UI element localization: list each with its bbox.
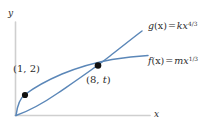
curve-label-g: g(x)=kx4/3 bbox=[148, 21, 197, 31]
point2-suffix: ) bbox=[107, 74, 111, 85]
point-label-1-2: (1, 2) bbox=[13, 64, 40, 74]
point1-suffix: ) bbox=[36, 63, 40, 74]
x-axis-label: x bbox=[154, 110, 159, 119]
g-equals-sign: = bbox=[167, 20, 177, 31]
f-equals-sign: = bbox=[164, 55, 174, 66]
f-coefficient: m bbox=[174, 55, 183, 66]
f-exponent: 1/3 bbox=[189, 56, 198, 62]
g-argument: (x) bbox=[154, 20, 167, 31]
function-graph-figure: y x g(x)=kx4/3 f(x)=mx1/3 (1, 2) (8, t) bbox=[0, 0, 222, 132]
y-axis-label: y bbox=[8, 9, 13, 18]
point-marker-1-2 bbox=[22, 92, 28, 98]
f-argument: (x) bbox=[152, 55, 165, 66]
g-exponent: 4/3 bbox=[188, 21, 197, 27]
point2-prefix: (8, bbox=[86, 74, 103, 85]
point-marker-8-t bbox=[95, 62, 102, 69]
curve-label-f: f(x)=mx1/3 bbox=[148, 56, 198, 66]
point1-prefix: (1, bbox=[13, 63, 30, 74]
point-label-8-t: (8, t) bbox=[86, 75, 111, 85]
